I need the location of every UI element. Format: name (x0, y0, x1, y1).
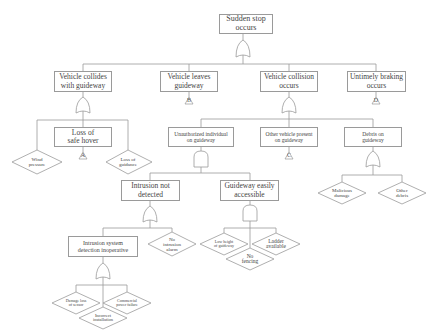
transfer-label: C (284, 152, 294, 158)
event-box-guideway-easily-accessible: Guideway easilyaccessible (220, 180, 279, 201)
event-label: pressure (29, 162, 46, 167)
event-label: with guideway (59, 82, 107, 90)
event-low-height-of-guideway: Low heightof guideway (206, 237, 242, 251)
event-label: detection inoperative (78, 247, 128, 254)
or-gate-icon (76, 97, 90, 113)
event-no-fencing: Nofencing (232, 252, 268, 266)
event-label: Intrusion system (78, 240, 128, 247)
event-label: on guideway (265, 137, 312, 143)
event-box-vehicle-collides: Vehicle collideswith guideway (54, 71, 112, 92)
event-label: debris (396, 193, 408, 198)
event-box-untimely-braking: Untimely brakingoccurs (347, 71, 406, 92)
event-label: damage (332, 193, 352, 198)
event-label: installation (93, 318, 113, 323)
event-incorrect-installation: Incorrectinstallation (85, 311, 121, 325)
event-label: guideway (362, 137, 384, 143)
event-box-intrusion-not-detected: Intrusion notdetected (121, 180, 180, 201)
or-gate-icon (143, 206, 157, 222)
event-damage-loss-of-sensor: Damage lossof sensor (58, 296, 94, 310)
transfer-label: A (78, 152, 88, 158)
event-label: guideway (167, 82, 210, 90)
or-gate-icon (282, 97, 296, 113)
fault-tree-diagram: .ln { stroke:#9a9a9a; stroke-width:0.8; … (0, 0, 437, 334)
event-label: accessible (224, 191, 274, 199)
event-label: power failure (116, 303, 137, 307)
transfer-label: D (371, 97, 381, 103)
top-event-box: Sudden stopoccurs (219, 14, 273, 34)
event-box-intrusion-system-inoperative: Intrusion systemdetection inoperative (68, 236, 138, 257)
event-other-debris: Otherdebris (384, 186, 420, 200)
event-label: on guideway (174, 137, 228, 143)
or-gate-icon (96, 263, 110, 279)
and-gate-icon (243, 205, 257, 221)
and-gate-icon (194, 151, 208, 167)
event-ladder-available: Ladderavailable (258, 237, 294, 251)
event-no-intrusion-alarm: Nointrusionalarm (155, 234, 189, 254)
event-label: fencing (242, 259, 259, 265)
event-commercial-power-failure: Commercialpower failure (109, 296, 145, 310)
event-malicious-damage: Maliciousdamage (324, 186, 360, 200)
event-label: of sensor (66, 303, 87, 307)
event-box-other-vehicle-present: Other vehicle presenton guideway (260, 127, 318, 147)
event-box-loss-of-safe-hover: Loss ofsafe hover (54, 127, 112, 147)
event-box-vehicle-leaves: Vehicle leavesguideway (160, 71, 218, 92)
event-label: alarm (163, 247, 181, 252)
or-gate-icon (366, 151, 380, 167)
event-label: safe hover (67, 137, 98, 145)
event-loss-of-guidance: Loss ofguidance (108, 154, 148, 170)
event-box-vehicle-collision: Vehicle collisionoccurs (260, 71, 318, 92)
event-label: occurs (226, 24, 265, 33)
or-gate-icon (236, 40, 250, 57)
event-label: detected (131, 191, 170, 199)
transfer-label: B (184, 97, 194, 103)
event-label: guidance (119, 162, 137, 167)
event-label: of guideway (214, 244, 234, 248)
event-label: occurs (264, 82, 314, 90)
event-label: intrusion (163, 242, 181, 247)
event-box-unauthorized-individual: Unauthorized individualon guideway (168, 127, 234, 147)
event-label: occurs (350, 82, 403, 90)
event-label: available (266, 244, 286, 250)
event-box-debris-on-guideway: Debris onguideway (344, 127, 402, 147)
event-wind-pressure: Windpressure (17, 154, 57, 170)
